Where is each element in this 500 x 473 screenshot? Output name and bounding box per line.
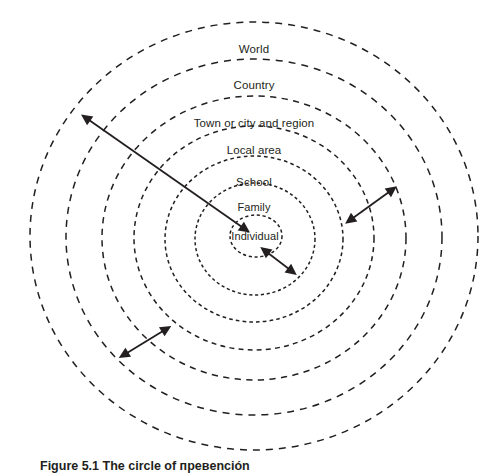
ring-label-town-or-city-and-region: Town or city and region [194,117,315,129]
ring-label-individual: Individual [231,230,278,242]
ring-label-world: World [239,43,269,55]
inner-gap-arrow [268,253,289,269]
long-outward-arrow [89,120,242,227]
lower-left-gap-arrow [127,331,163,353]
ring-label-local-area: Local area [227,144,282,156]
ring-label-country: Country [234,79,275,91]
figure-caption: Figure 5.1 The circle of превención [40,459,470,473]
ring-label-family: Family [238,201,271,213]
ring-label-school: School [236,176,272,188]
right-gap-arrow [353,192,389,218]
